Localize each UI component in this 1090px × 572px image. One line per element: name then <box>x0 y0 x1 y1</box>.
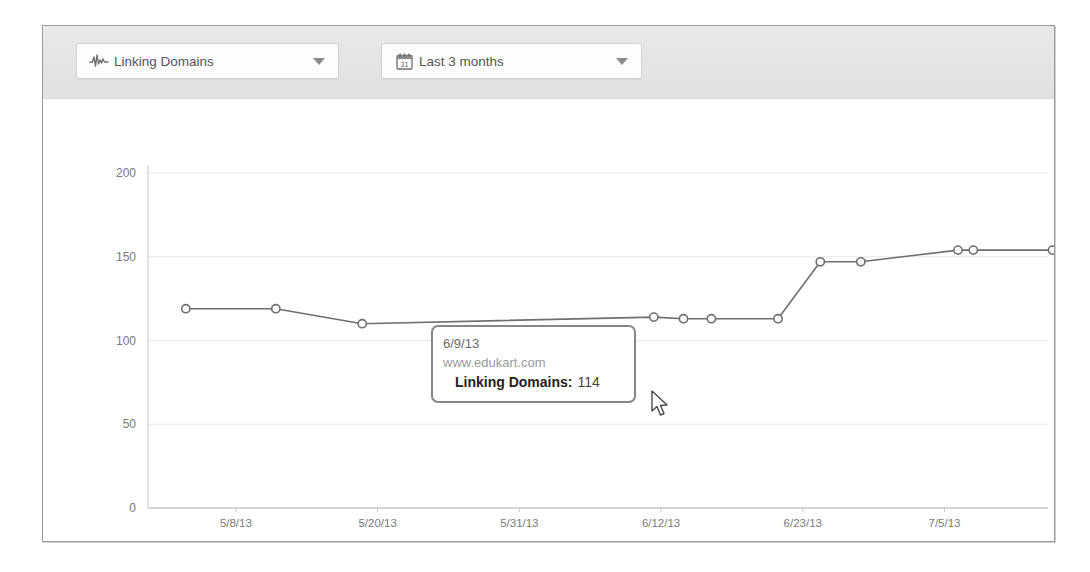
x-tick-label: 5/20/13 <box>358 517 396 529</box>
metric-dropdown[interactable]: Linking Domains <box>76 43 339 79</box>
x-tick-label: 7/5/13 <box>929 517 961 529</box>
chevron-down-icon[interactable] <box>609 58 635 65</box>
pulse-waveform-icon <box>86 54 112 68</box>
y-tick-label: 100 <box>116 334 136 348</box>
period-dropdown-label: Last 3 months <box>419 54 609 69</box>
chart-plot-area[interactable]: 050100150200 5/8/135/20/135/31/136/12/13… <box>43 99 1054 541</box>
data-point-marker[interactable] <box>774 315 782 323</box>
data-point-marker[interactable] <box>707 315 715 323</box>
series-line-linking-domains <box>186 250 1053 324</box>
data-point-marker[interactable] <box>650 313 658 321</box>
x-tick-label: 5/31/13 <box>500 517 538 529</box>
tooltip-site: www.edukart.com <box>443 353 624 372</box>
x-tick-label: 5/8/13 <box>220 517 252 529</box>
y-tick-label: 200 <box>116 166 136 180</box>
data-point-marker[interactable] <box>182 305 190 313</box>
y-axis-tick-labels: 050100150200 <box>116 166 136 515</box>
tooltip-date: 6/9/13 <box>443 335 624 353</box>
x-tick-label: 6/23/13 <box>784 517 822 529</box>
x-axis-tick-labels: 5/8/135/20/135/31/136/12/136/23/137/5/13 <box>220 508 961 529</box>
data-point-marker[interactable] <box>272 305 280 313</box>
tooltip-metric-label: Linking Domains: <box>455 374 572 390</box>
chevron-down-icon[interactable] <box>306 58 332 65</box>
metric-dropdown-label: Linking Domains <box>114 54 306 69</box>
chart-widget-frame: Linking Domains 31 Last 3 months <box>42 25 1055 542</box>
y-tick-label: 50 <box>123 417 137 431</box>
chart-tooltip: 6/9/13 www.edukart.com Linking Domains:1… <box>431 325 636 403</box>
data-point-marker[interactable] <box>358 320 366 328</box>
chart-series-line <box>186 250 1053 324</box>
tooltip-metric-row: Linking Domains:114 <box>443 372 624 392</box>
data-point-marker[interactable] <box>857 258 865 266</box>
y-tick-label: 0 <box>129 501 136 515</box>
data-point-marker[interactable] <box>954 246 962 254</box>
calendar-icon-day: 31 <box>400 59 408 68</box>
linking-domains-line-chart: 050100150200 5/8/135/20/135/31/136/12/13… <box>43 99 1054 542</box>
chart-toolbar: Linking Domains 31 Last 3 months <box>43 26 1054 99</box>
tooltip-metric-value: 114 <box>577 374 599 390</box>
y-tick-label: 150 <box>116 250 136 264</box>
data-point-marker[interactable] <box>816 258 824 266</box>
x-tick-label: 6/12/13 <box>642 517 680 529</box>
calendar-icon: 31 <box>391 53 417 70</box>
data-point-marker[interactable] <box>969 246 977 254</box>
period-dropdown[interactable]: 31 Last 3 months <box>381 43 642 79</box>
data-point-marker[interactable] <box>679 315 687 323</box>
data-point-marker[interactable] <box>1048 246 1054 254</box>
